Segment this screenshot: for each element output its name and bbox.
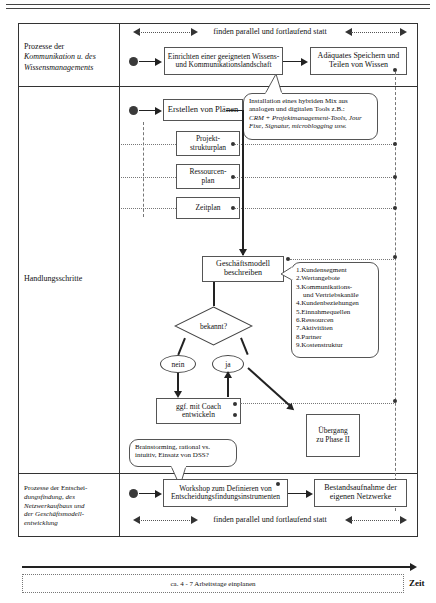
node-gm-line2: beschreiben — [224, 268, 262, 277]
node-coach[interactable]: ggf. mit Coach entwickeln — [156, 398, 241, 424]
row3-label-line5: entwicklung — [24, 519, 58, 527]
node-gm-line1: Geschäftsmodell — [216, 259, 270, 268]
node-bestand-line2: eigenen Netzwerke — [330, 492, 392, 501]
node-bestand-line1: Bestandsaufnahme der — [324, 483, 397, 492]
callout-brainstorming: Brainstorming, rational vs. intuitiv, Ei… — [129, 439, 237, 467]
connector-einrichten-to-speichern — [283, 61, 303, 63]
marker-dot-rail-3 — [393, 206, 397, 210]
callout-tools-line3: CRM + Projektmanagement-Tools, Jour — [249, 114, 372, 122]
arrow-start-to-einrichten — [155, 58, 162, 66]
node-speichern-line2: Teilen von Wissen — [329, 60, 388, 69]
marker-dot-coach-1 — [233, 402, 237, 406]
row1-label-line1: Prozesse der — [24, 42, 64, 51]
time-axis-arrowhead — [410, 563, 417, 571]
connector-ja-up — [227, 375, 229, 397]
node-speichern-line1: Adäquates Speichern und — [318, 51, 400, 60]
row1-label-line2: Kommunikation u. des — [24, 52, 96, 61]
page-rule-top — [6, 4, 430, 5]
node-uebergang-line2: zu Phase II — [316, 435, 349, 444]
callout-tools-tail — [262, 74, 288, 94]
bmc-item-7: 7.Aktivitäten — [296, 324, 374, 332]
time-axis-line — [22, 566, 412, 568]
branch-nein[interactable]: nein — [160, 355, 196, 373]
rail-dot-zeitplan-right — [235, 208, 396, 209]
arrow-coach-to-ja — [224, 371, 232, 378]
callout-tools-line2: analogen und digitalen Tools z.B.: — [249, 105, 372, 113]
bmc-list: 1.Kundensegment 2.Wertangebote 3.Kommuni… — [296, 266, 374, 349]
arrow-start-to-workshop — [155, 490, 162, 498]
row-label-kommunikation: Prozesse der Kommunikation u. des Wissen… — [19, 30, 118, 85]
row3-label-line3: Netzwerkaufbaus und — [24, 502, 84, 510]
branch-ja-label: ja — [225, 360, 230, 369]
rail-dot-zeitplan-left — [121, 208, 176, 209]
node-workshop[interactable]: Workshop zum Definieren von Entscheidung… — [163, 479, 288, 507]
bmc-item-3b: und Vertriebskanäle — [296, 291, 374, 299]
row3-label-line1: Prozesse der Entschei- — [24, 484, 87, 492]
row2-label: Handlungsschritte — [24, 274, 82, 284]
callout-tools-line1: Installation eines hybriden Mix aus — [249, 97, 372, 105]
bmc-item-5: 5.Einnahmequellen — [296, 308, 374, 316]
bmc-item-3: 3.Kommunikations- — [296, 283, 374, 291]
branch-nein-label: nein — [172, 360, 185, 369]
node-uebergang[interactable]: Übergang zu Phase II — [306, 414, 360, 457]
node-zeitplan-label: Zeitplan — [196, 204, 221, 212]
spine-plaene-down — [242, 110, 244, 255]
callout-bmc-list: 1.Kundensegment 2.Wertangebote 3.Kommuni… — [291, 262, 379, 358]
connector-workshop-to-bestand — [288, 493, 308, 495]
rail-dot-geschaeftsmodell — [290, 259, 396, 260]
callout-tools: Installation eines hybriden Mix aus anal… — [243, 93, 378, 140]
parallel-arrow-top-left — [133, 28, 198, 37]
arrow-nein-to-coach — [174, 391, 182, 398]
start-dot-row3 — [129, 489, 138, 498]
marker-dot-workshop — [276, 482, 280, 486]
rail-dot-rp-left — [121, 177, 176, 178]
parallel-arrow-top-right — [345, 28, 407, 37]
marker-dot-rail-1 — [393, 142, 397, 146]
connector-gm-to-decision — [213, 282, 215, 306]
node-rp-line2: plan — [202, 176, 215, 185]
bmc-item-8: 8.Partner — [296, 333, 374, 341]
node-kommunikationslandschaft[interactable]: Einrichten einer geeigneten Wissens- und… — [164, 47, 283, 75]
arrow-start-to-plaene — [155, 107, 162, 115]
arrow-einrichten-to-speichern — [301, 58, 308, 66]
time-duration-label: ca. 4 - 7 Arbeitstage einplanen — [170, 580, 255, 588]
row1-label-line3: Wissensmanagements — [24, 63, 93, 72]
banner-bottom-text: finden parallel und fortlaufend statt — [200, 515, 340, 524]
marker-dot-coach-2 — [233, 413, 237, 417]
node-geschaeftsmodell[interactable]: Geschäftsmodell beschreiben — [202, 256, 284, 282]
arrow-workshop-to-bestand — [306, 490, 313, 498]
callout-tools-line4: Fixe, Signatur, microblogging usw. — [249, 122, 372, 130]
row-divider-2 — [18, 473, 418, 474]
node-coach-line2: entwickeln — [182, 410, 215, 419]
row-label-handlungsschritte: Handlungsschritte — [19, 87, 118, 472]
bmc-item-2: 2.Wertangebote — [296, 274, 374, 282]
page-rule-top-2 — [6, 8, 430, 9]
bmc-item-1: 1.Kundensegment — [296, 266, 374, 274]
rail-dot-psp-left — [121, 144, 176, 145]
callout-brainstorming-line1: Brainstorming, rational vs. — [135, 443, 231, 451]
bmc-item-6: 6.Ressourcen — [296, 316, 374, 324]
start-dot-row1 — [129, 57, 138, 66]
row3-label-line4: der Geschäftsmodell- — [24, 510, 84, 518]
spine-plaene-stub — [226, 110, 244, 112]
node-psp-line2: strukturplan — [190, 143, 226, 152]
diagram-canvas: Prozesse der Kommunikation u. des Wissen… — [0, 0, 436, 603]
time-duration-box: ca. 4 - 7 Arbeitstage einplanen — [22, 574, 404, 593]
marker-dot-rail-2 — [393, 175, 397, 179]
row-label-entscheidungsfindung: Prozesse der Entschei- dungsfindung, des… — [19, 478, 118, 534]
label-column-divider — [119, 23, 120, 537]
node-komm-line2: und Kommunikationslandschaft — [175, 60, 271, 69]
node-bestandsaufnahme[interactable]: Bestandsaufnahme der eigenen Netzwerke — [314, 479, 407, 507]
right-rail-dotted — [395, 72, 396, 511]
bmc-item-9: 9.Kostenstruktur — [296, 341, 374, 349]
banner-top-text: finden parallel und fortlaufend statt — [200, 27, 340, 36]
callout-brainstorming-line2: intuitiv, Einsatz von DSS? — [135, 451, 231, 459]
rail-dot-coach — [240, 403, 396, 404]
rail-dot-psp-right — [235, 144, 396, 145]
row3-label-line2: dungsfindung, des — [24, 493, 75, 501]
start-dot-row2 — [129, 106, 138, 115]
time-axis-label: Zeit — [409, 578, 425, 588]
rail-dot-rp-right — [235, 177, 396, 178]
callout-bmc-tail — [281, 265, 293, 283]
bmc-item-4: 4.Kundenbeziehungen — [296, 299, 374, 307]
